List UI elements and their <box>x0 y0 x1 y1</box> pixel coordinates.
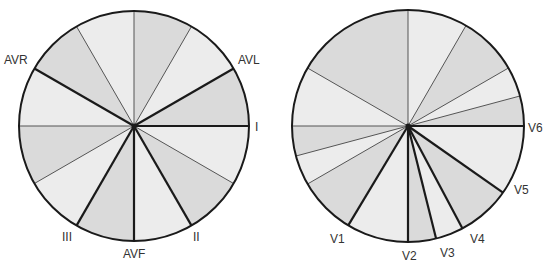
horizontal-plane-wheel: V6V5V4V3V2V1 <box>292 10 543 263</box>
frontal-plane-wheel: IIIAVFIIIAVRAVL <box>4 11 260 261</box>
lead-label-v4: V4 <box>470 232 485 246</box>
lead-label-iii: III <box>62 230 72 244</box>
lead-label-v2: V2 <box>402 249 417 263</box>
ecg-lead-diagram: IIIAVFIIIAVRAVLV6V5V4V3V2V1 <box>0 0 552 263</box>
lead-label-v1: V1 <box>330 232 345 246</box>
lead-label-avr: AVR <box>4 53 28 67</box>
lead-label-v3: V3 <box>440 246 455 260</box>
lead-label-ii: II <box>193 230 200 244</box>
lead-label-v5: V5 <box>514 183 529 197</box>
lead-label-avf: AVF <box>123 247 145 261</box>
lead-label-avl: AVL <box>238 53 260 67</box>
lead-label-v6: V6 <box>528 121 543 135</box>
horizontal-center-point <box>406 124 411 129</box>
lead-label-i: I <box>255 120 258 134</box>
frontal-center-point <box>132 124 137 129</box>
